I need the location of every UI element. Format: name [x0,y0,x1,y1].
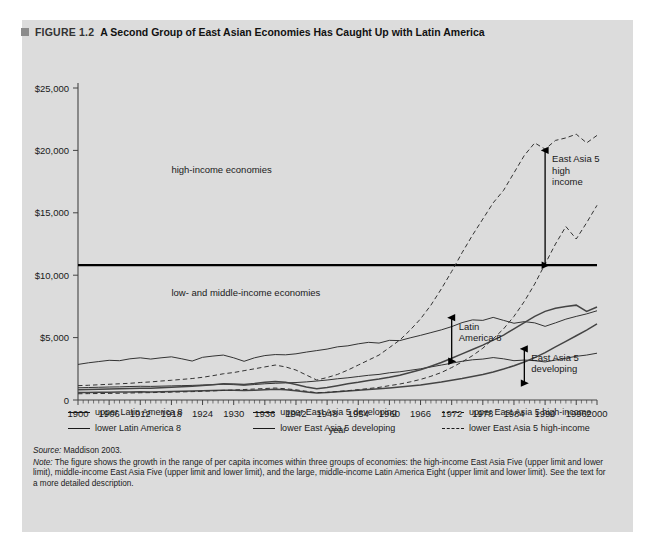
legend-label: lower East Asia 5 developing [280,423,395,433]
legend-label: lower Latin America 8 [95,423,181,433]
legend-swatch-solid-icon [253,424,275,433]
svg-text:high: high [552,165,570,176]
legend-item-lower-east-asia-5-developing[interactable]: lower East Asia 5 developing [253,423,442,433]
figure-number-label: FIGURE 1.2 [35,26,94,38]
series-line-lower-east-asia-5-high-income [78,205,597,393]
figure-title-row: FIGURE 1.2 A Second Group of East Asian … [21,26,485,38]
note-text: The figure shows the growth in the range… [33,458,605,488]
source-label: Source: [33,446,61,455]
svg-text:income: income [552,176,583,187]
svg-text:East Asia 5: East Asia 5 [552,153,600,164]
legend-label: upper Latin America 8 [95,407,183,417]
series-line-upper-east-asia-5-developing [78,305,597,390]
figure-title: A Second Group of East Asian Economies H… [100,26,484,38]
chart-area: 0$5,000$10,000$15,000$20,000$25,00019001… [0,48,611,448]
legend-label: lower East Asia 5 high-income [469,423,590,433]
legend-item-upper-east-asia-5-high-income[interactable]: upper East Asia 5 high-income [442,407,606,417]
legend-label: upper East Asia 5 developing [280,407,397,417]
legend-row-upper: upper Latin America 8 upper East Asia 5 … [46,404,606,420]
legend-item-lower-east-asia-5-high-income[interactable]: lower East Asia 5 high-income [442,423,606,433]
series-line-upper-latin-america-8 [78,311,597,365]
y-tick-label: $15,000 [35,207,69,218]
legend-swatch-dashed-icon [442,408,464,417]
y-tick-label: $10,000 [35,270,69,281]
region-label: low- and middle-income economies [171,287,320,298]
y-tick-label: $20,000 [35,145,69,156]
region-label: high-income economies [171,164,272,175]
legend-swatch-solid-icon [68,424,90,433]
svg-text:Latin: Latin [459,321,480,332]
legend-label: upper East Asia 5 high-income [469,407,591,417]
legend-swatch-solid-icon [253,408,275,417]
svg-text:East Asia 5: East Asia 5 [531,352,579,363]
annotation-label: East Asia 5highincome [552,153,600,187]
annotation-label: East Asia 5developing [531,352,579,375]
source-text: Maddison 2003. [61,446,122,455]
legend-item-lower-latin-america-8[interactable]: lower Latin America 8 [46,423,253,433]
source-line: Source: Maddison 2003. [33,446,608,457]
chart-legend: upper Latin America 8 upper East Asia 5 … [46,404,606,440]
legend-swatch-dashed-icon [442,424,464,433]
y-tick-label: $25,000 [35,83,69,94]
series-line-upper-east-asia-5-high-income [78,134,597,385]
legend-row-lower: lower Latin America 8 lower East Asia 5 … [46,420,606,436]
legend-item-upper-latin-america-8[interactable]: upper Latin America 8 [46,407,253,417]
svg-text:America 8: America 8 [459,332,502,343]
y-tick-label: $5,000 [40,332,69,343]
legend-item-upper-east-asia-5-developing[interactable]: upper East Asia 5 developing [253,407,442,417]
gray-square-icon [21,28,29,36]
note-line: Note: The figure shows the growth in the… [33,458,608,490]
annotation-label: LatinAmerica 8 [459,321,502,344]
figure-notes: Source: Maddison 2003. Note: The figure … [33,446,608,489]
svg-text:developing: developing [531,363,577,374]
legend-swatch-solid-icon [68,408,90,417]
note-label: Note: [33,458,53,467]
line-chart-svg: 0$5,000$10,000$15,000$20,000$25,00019001… [0,48,611,448]
